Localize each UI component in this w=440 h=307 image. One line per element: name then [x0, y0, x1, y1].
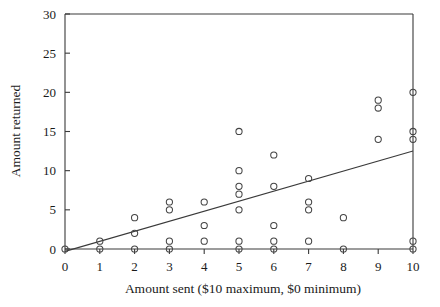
- data-point: [271, 238, 277, 244]
- data-point: [306, 238, 312, 244]
- x-tick-label: 3: [166, 259, 173, 274]
- plot-area: 051015202530012345678910 Amount sent ($1…: [0, 0, 440, 307]
- data-point: [236, 168, 242, 174]
- x-tick-label: 0: [62, 259, 69, 274]
- data-point: [166, 238, 172, 244]
- data-point: [132, 215, 138, 221]
- x-axis-title: Amount sent ($10 maximum, $0 minimum): [125, 281, 361, 296]
- data-point: [236, 207, 242, 213]
- data-point: [271, 222, 277, 228]
- x-tick-label: 8: [340, 259, 347, 274]
- y-tick-label: 0: [50, 242, 57, 257]
- data-point: [166, 199, 172, 205]
- data-points: [62, 89, 416, 252]
- data-point: [201, 199, 207, 205]
- data-point: [271, 152, 277, 158]
- y-tick-label: 15: [43, 124, 56, 139]
- data-point: [375, 136, 381, 142]
- data-point: [306, 207, 312, 213]
- data-point: [166, 207, 172, 213]
- data-point: [306, 199, 312, 205]
- data-point: [236, 238, 242, 244]
- y-tick-label: 25: [43, 46, 56, 61]
- y-tick-label: 20: [43, 85, 56, 100]
- data-point: [375, 105, 381, 111]
- tick-marks: [65, 14, 413, 254]
- x-tick-label: 9: [375, 259, 382, 274]
- y-tick-label: 5: [50, 202, 57, 217]
- regression-line: [65, 151, 413, 251]
- data-point: [340, 215, 346, 221]
- axes: [65, 14, 413, 249]
- x-tick-label: 2: [131, 259, 138, 274]
- y-tick-label: 10: [43, 163, 56, 178]
- data-point: [236, 128, 242, 134]
- data-point: [201, 238, 207, 244]
- x-tick-label: 7: [305, 259, 312, 274]
- x-tick-label: 10: [407, 259, 420, 274]
- data-point: [236, 191, 242, 197]
- data-point: [236, 183, 242, 189]
- x-tick-label: 5: [236, 259, 243, 274]
- x-tick-label: 4: [201, 259, 208, 274]
- y-tick-label: 30: [43, 7, 56, 22]
- tick-labels: 051015202530012345678910: [43, 7, 420, 275]
- x-tick-label: 6: [271, 259, 278, 274]
- data-point: [201, 222, 207, 228]
- y-axis-title: Amount returned: [8, 84, 23, 177]
- data-point: [271, 183, 277, 189]
- scatter-chart: 051015202530012345678910 Amount sent ($1…: [0, 0, 440, 307]
- x-tick-label: 1: [97, 259, 104, 274]
- data-point: [375, 97, 381, 103]
